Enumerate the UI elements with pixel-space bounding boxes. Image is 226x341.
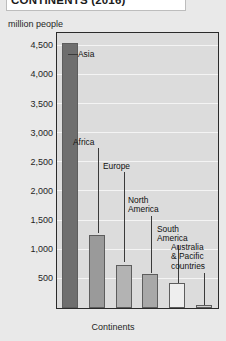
bar-europe	[116, 265, 132, 308]
y-tick-label: 3,500	[4, 99, 56, 109]
y-tick-label: 500	[4, 273, 56, 283]
bar-australia-pacific-countries	[196, 305, 212, 308]
x-axis-label: Continents	[0, 322, 226, 332]
leader-line-africa	[98, 148, 99, 233]
leader-line-europe	[124, 172, 125, 262]
y-tick-label: 2,500	[4, 157, 56, 167]
bar-north-america	[142, 274, 158, 308]
leader-line-australia	[204, 273, 205, 305]
gridline	[57, 45, 218, 46]
annotation-label-south-america: South America	[157, 225, 188, 244]
bar-asia	[62, 43, 78, 308]
annotation-label-north-america: North America	[128, 196, 159, 215]
y-tick-label: 1,500	[4, 215, 56, 225]
gridline	[57, 161, 218, 162]
y-tick-label: 1,000	[4, 244, 56, 254]
annotation-label-asia: Asia	[78, 50, 94, 59]
annotation-label-africa: Africa	[73, 138, 94, 147]
gridline	[57, 74, 218, 75]
y-tick-label: 4,000	[4, 69, 56, 79]
gridline	[57, 132, 218, 133]
leader-line-north-america	[151, 216, 152, 273]
leader-line-asia	[68, 54, 78, 55]
bar-africa	[89, 235, 105, 308]
gridline	[57, 103, 218, 104]
continents-population-chart: CONTINENTS (2016) million people 4,5004,…	[0, 0, 226, 341]
annotation-label-europe: Europe	[103, 162, 130, 171]
y-tick-label: 3,000	[4, 128, 56, 138]
y-tick-label: 2,000	[4, 186, 56, 196]
annotation-label-australia: Australia & Pacific countries	[171, 243, 205, 271]
y-axis-ticks: 4,5004,0003,5003,0002,5002,0001,5001,000…	[0, 0, 56, 341]
gridline	[57, 278, 218, 279]
gridline	[57, 190, 218, 191]
y-tick-label: 4,500	[4, 40, 56, 50]
bar-south-america	[169, 283, 185, 308]
gridline	[57, 220, 218, 221]
